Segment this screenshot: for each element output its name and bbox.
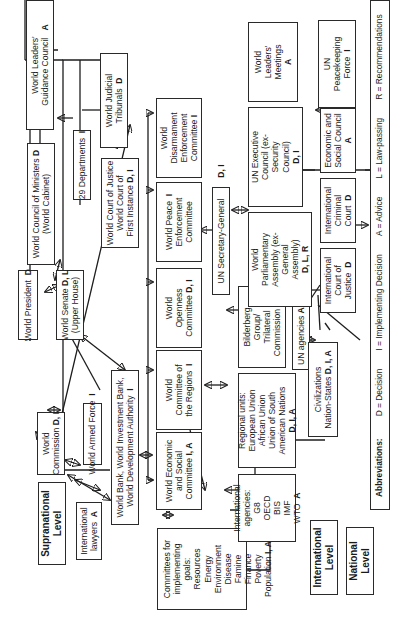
node-international-court-of-justice: International Court of Justice D	[320, 248, 356, 313]
legend-item-implementing: I = Implementing Decision	[375, 254, 385, 351]
un-secretary-code: D, I	[212, 156, 230, 186]
node-world-committee-of-regions: World Committee of the Regions I	[156, 350, 202, 430]
node-world-judicial-tribunals: World Judicial Tribunals D	[100, 53, 128, 148]
node-world-leaders-guidance-council: World Leaders' Guidance Council A	[26, 0, 54, 130]
node-committees-implementing-goals: Committees for implementing goals: Resou…	[157, 528, 247, 610]
national-level-label: National Level	[346, 527, 374, 595]
node-world-council-of-ministers: World Council of Ministers D (World Cabi…	[27, 143, 55, 265]
legend-item-decision: D = Decision	[375, 369, 385, 417]
node-world-senate: World Senate D, L (Upper House)	[56, 270, 84, 340]
node-international-lawyers: International lawyers A	[76, 502, 102, 560]
supranational-level-label: Supranational Level	[38, 482, 66, 565]
legend-item-recommendations: R = Recommendations	[375, 14, 385, 99]
node-world-court-of-justice: World Court of Justice World Court of Fi…	[101, 158, 139, 248]
node-world-disarmament-committee: World Disarmament Enforcement Committee …	[156, 98, 202, 178]
node-world-leaders-meetings: World Leaders' Meetings A	[248, 22, 298, 102]
node-un-secretary-general: UN Secretary-General	[212, 187, 230, 295]
abbreviations-legend: Abbreviations: D = Decision I = Implemen…	[370, 0, 390, 510]
node-economic-social-council: Economic and Social Council A	[320, 108, 356, 173]
node-un-executive-council: UN Executive Council (ex- Security Counc…	[248, 107, 303, 207]
node-29-departments: 29 Departments I	[73, 130, 91, 200]
node-world-commission: World Commission D, I	[37, 412, 65, 475]
legend-item-law-passing: L = Law-passing	[375, 118, 385, 179]
node-world-openness-committee: World Openness Committee D, I	[156, 268, 202, 348]
node-international-criminal-court: International Criminal Court D	[320, 178, 356, 243]
node-world-president: World President D	[18, 270, 38, 340]
legend-title: Abbreviations:	[375, 438, 385, 497]
node-un-peacekeeping-force: UN Peacekeeping Force I	[318, 20, 356, 108]
node-world-parliamentary-assembly: World Parliamentary Assembly (ex- Genera…	[248, 212, 312, 307]
node-international-agencies: International agencies: G8 OECD BIS IMF …	[238, 474, 296, 542]
node-civilizations-nation-states: Civilizations Nation-States D, I, A	[308, 342, 338, 437]
node-world-bank: World Bank, World Investment Bank, World…	[111, 370, 139, 525]
node-world-economic-social-committee: World Economic and Social Committee I, A	[156, 432, 202, 510]
node-regional-units: Regional units: European Union African U…	[238, 373, 296, 468]
world-government-diagram: World Leaders' Guidance Council A World …	[0, 0, 402, 630]
node-world-armed-force: World Armed Force I	[83, 403, 102, 465]
node-world-peace-enforcement-committee: World Peace I Enforcement Committee	[156, 182, 202, 262]
international-level-label: International Level	[310, 520, 338, 595]
legend-item-advice: A = Advice	[375, 197, 385, 236]
